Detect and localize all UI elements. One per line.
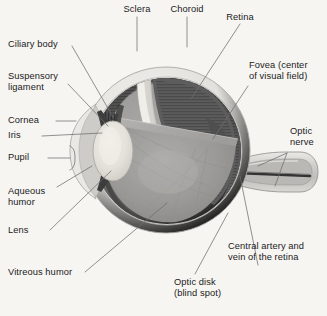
label-choroid: Choroid bbox=[158, 4, 216, 15]
label-ciliary-body: Ciliary body bbox=[8, 39, 74, 50]
label-retina: Retina bbox=[214, 12, 266, 23]
label-aqueous-humor: Aqueous humor bbox=[8, 186, 66, 207]
label-iris: Iris bbox=[8, 130, 42, 141]
label-vitreous-humor: Vitreous humor bbox=[8, 267, 94, 278]
eye-diagram-figure: Sclera Choroid Retina Ciliary body Suspe… bbox=[0, 0, 327, 316]
label-pupil: Pupil bbox=[8, 152, 48, 163]
label-cornea: Cornea bbox=[8, 115, 56, 126]
label-suspensory-ligament: Suspensory ligament bbox=[8, 71, 74, 92]
label-fovea: Fovea (center of visual field) bbox=[249, 60, 325, 81]
label-central-artery-vein: Central artery and vein of the retina bbox=[228, 241, 326, 262]
label-lens: Lens bbox=[8, 225, 48, 236]
label-optic-disk: Optic disk (blind spot) bbox=[174, 277, 246, 298]
label-optic-nerve: Optic nerve bbox=[290, 126, 326, 147]
